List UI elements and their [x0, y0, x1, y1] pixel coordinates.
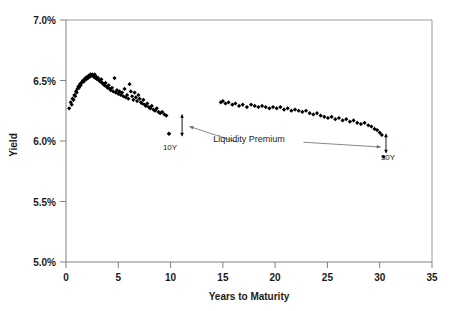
data-point [337, 116, 341, 120]
data-point [271, 105, 275, 109]
x-tick-label-0: 0 [63, 272, 69, 283]
x-axis-tick-labels: 0 5 10 15 20 25 30 35 [63, 272, 438, 283]
data-point [127, 82, 131, 86]
liquidity-premium-arrow-10y-head [180, 133, 184, 136]
data-point [241, 103, 245, 107]
x-axis-title: Years to Maturity [209, 291, 290, 302]
data-point [355, 121, 359, 125]
data-point [311, 112, 315, 116]
leader-to-10y-head [189, 126, 193, 129]
data-point [275, 106, 279, 110]
data-point [282, 107, 286, 111]
chart-canvas: 7.0% 6.5% 6.0% 5.5% 5.0% 0 5 10 15 20 25… [0, 0, 454, 311]
x-tick-label-35: 35 [426, 272, 438, 283]
y-axis-ticks [60, 20, 66, 262]
data-point [289, 109, 293, 113]
x-tick-label-30: 30 [374, 272, 386, 283]
y-axis-tick-labels: 7.0% 6.5% 6.0% 5.5% 5.0% [33, 15, 56, 268]
data-point [300, 110, 304, 114]
data-point [132, 91, 136, 95]
data-point [260, 104, 264, 108]
data-point [256, 105, 260, 109]
x-tick-label-25: 25 [322, 272, 334, 283]
data-point [122, 87, 126, 91]
liquidity-premium-arrow-30y-head [384, 134, 388, 137]
x-tick-label-20: 20 [270, 272, 282, 283]
data-point [319, 113, 323, 117]
y-axis-title: Yield [8, 133, 19, 157]
x-tick-label-10: 10 [165, 272, 177, 283]
data-point [308, 111, 312, 115]
y-tick-label-5-5: 5.5% [33, 197, 56, 208]
data-point [278, 105, 282, 109]
data-point [340, 118, 344, 122]
data-point [330, 115, 334, 119]
data-point [359, 122, 363, 126]
data-point [344, 117, 348, 121]
data-point [237, 104, 241, 108]
data-point [267, 106, 271, 110]
data-point [253, 104, 257, 108]
data-point [293, 107, 297, 111]
data-point [286, 106, 290, 110]
ten-year-label: 10Y [163, 143, 178, 152]
data-points-layer [67, 72, 385, 158]
y-tick-label-6-5: 6.5% [33, 76, 56, 87]
data-point [348, 120, 352, 124]
x-tick-label-5: 5 [116, 272, 122, 283]
data-point [245, 105, 249, 109]
data-point [130, 94, 134, 98]
thirty-year-label: 30Y [381, 153, 396, 162]
data-point [315, 111, 319, 115]
data-point [322, 115, 326, 119]
data-point [67, 106, 71, 110]
data-point [326, 116, 330, 120]
data-point [297, 109, 301, 113]
y-tick-label-7-0: 7.0% [33, 15, 56, 26]
y-tick-label-5-0: 5.0% [33, 257, 56, 268]
data-point [304, 109, 308, 113]
data-point [351, 118, 355, 122]
y-tick-label-6-0: 6.0% [33, 136, 56, 147]
data-point [333, 117, 337, 121]
x-tick-label-15: 15 [217, 272, 229, 283]
data-point [129, 89, 133, 93]
leader-to-30y [303, 142, 380, 147]
liquidity-premium-label: Liquidity Premium [213, 134, 285, 144]
liquidity-premium-arrow-10y-head [180, 114, 184, 117]
leader-to-30y-head [377, 145, 381, 149]
data-point [264, 105, 268, 109]
data-point [362, 121, 366, 125]
yield-curve-chart: 7.0% 6.5% 6.0% 5.5% 5.0% 0 5 10 15 20 25… [0, 0, 454, 311]
data-point [249, 103, 253, 107]
x-axis-ticks [66, 262, 432, 268]
data-point [112, 76, 116, 80]
data-point [167, 132, 171, 136]
